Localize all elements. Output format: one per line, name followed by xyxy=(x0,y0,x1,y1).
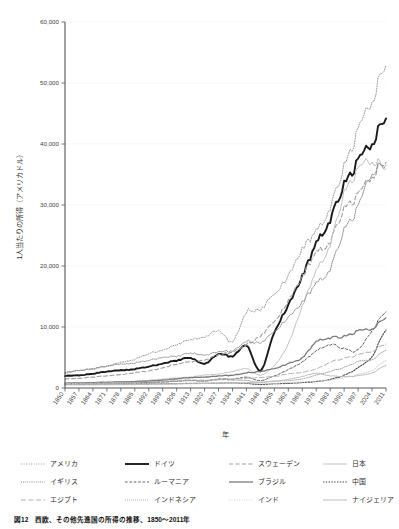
x-tick-label: 1885 xyxy=(121,390,135,406)
legend-label: インド xyxy=(258,497,279,504)
series-line xyxy=(65,65,386,373)
series-lines xyxy=(65,65,386,385)
x-tick-label: 1990 xyxy=(330,390,344,406)
x-tick-label: 1864 xyxy=(79,390,93,406)
x-tick-label: 1976 xyxy=(302,390,316,406)
legend-label: ナイジェリア xyxy=(352,497,394,504)
x-tick-label: 1948 xyxy=(247,390,261,406)
x-tick-label: 1850 xyxy=(51,390,65,406)
legend-item[interactable]: ブラジル xyxy=(228,478,322,486)
legend-swatch-line-icon xyxy=(228,478,254,486)
y-tick-label: 0 xyxy=(56,384,60,391)
x-axis-title: 年 xyxy=(222,430,229,439)
chart-legend: アメリカドイツスウェーデン日本イギリスルーマニアブラジル中国エジプトインドネシア… xyxy=(20,455,392,511)
legend-swatch-line-icon xyxy=(20,478,46,486)
x-axis-ticks: 1850185718641871187818851892189919061913… xyxy=(51,388,386,406)
series-line xyxy=(65,163,386,373)
legend-label: 日本 xyxy=(352,461,366,468)
legend-item[interactable]: エジプト xyxy=(20,496,124,504)
x-tick-label: 1962 xyxy=(274,390,288,406)
legend-label: スウェーデン xyxy=(258,461,300,468)
gridlines xyxy=(65,22,386,327)
x-tick-label: 1899 xyxy=(149,390,163,406)
y-tick-label: 10,000 xyxy=(40,323,59,330)
x-tick-label: 1941 xyxy=(233,390,247,406)
legend-item[interactable]: ナイジェリア xyxy=(322,496,399,504)
legend-swatch-line-icon xyxy=(322,496,348,504)
y-tick-label: 40,000 xyxy=(40,140,59,147)
y-tick-label: 60,000 xyxy=(40,18,59,25)
legend-item[interactable]: スウェーデン xyxy=(228,460,322,468)
legend-label: エジプト xyxy=(50,497,78,504)
legend-label: インドネシア xyxy=(154,497,196,504)
x-tick-label: 1934 xyxy=(219,390,233,406)
y-axis-ticks: 010,00020,00030,00040,00050,00060,000 xyxy=(40,18,65,391)
x-tick-label: 1871 xyxy=(93,390,107,406)
legend-label: イギリス xyxy=(50,479,78,486)
legend-label: ブラジル xyxy=(258,479,286,486)
y-axis-title: 1人当たりの所得（アメリカドル） xyxy=(15,151,24,260)
legend-swatch-line-icon xyxy=(322,460,348,468)
x-tick-label: 1906 xyxy=(163,390,177,406)
x-tick-label: 1857 xyxy=(65,390,79,406)
x-tick-label: 2011 xyxy=(372,390,386,405)
series-line xyxy=(65,312,386,385)
legend-swatch-line-icon xyxy=(228,460,254,468)
legend-item[interactable]: イギリス xyxy=(20,478,124,486)
legend-item[interactable]: 中国 xyxy=(322,478,399,486)
legend-item[interactable]: インド xyxy=(228,496,322,504)
figure-caption: 図12 西欧、その他先進国の所得の推移、1850～2011年 xyxy=(14,516,386,527)
x-tick-label: 1913 xyxy=(177,390,191,406)
figure-container: 010,00020,00030,00040,00050,00060,000 18… xyxy=(0,0,399,529)
legend-label: アメリカ xyxy=(50,461,78,468)
x-tick-label: 1997 xyxy=(344,390,358,406)
x-tick-label: 1878 xyxy=(107,390,121,406)
x-tick-label: 1920 xyxy=(191,390,205,406)
legend-label: ルーマニア xyxy=(154,479,189,486)
chart-area: 010,00020,00030,00040,00050,00060,000 18… xyxy=(0,0,399,440)
x-tick-label: 1955 xyxy=(261,390,275,406)
x-tick-label: 1983 xyxy=(316,390,330,406)
legend-swatch-line-icon xyxy=(20,460,46,468)
x-tick-label: 2004 xyxy=(358,390,372,406)
x-tick-label: 1969 xyxy=(288,390,302,406)
y-tick-label: 20,000 xyxy=(40,262,59,269)
series-line xyxy=(65,158,386,383)
y-tick-label: 50,000 xyxy=(40,79,59,86)
legend-label: 中国 xyxy=(352,479,366,486)
legend-item[interactable]: インドネシア xyxy=(124,496,228,504)
legend-swatch-line-icon xyxy=(124,496,150,504)
legend-swatch-line-icon xyxy=(20,496,46,504)
x-tick-label: 1892 xyxy=(135,390,149,406)
x-tick-label: 1927 xyxy=(205,390,219,406)
legend-label: ドイツ xyxy=(154,461,175,468)
legend-item[interactable]: 日本 xyxy=(322,460,399,468)
legend-swatch-line-icon xyxy=(228,496,254,504)
legend-item[interactable]: ドイツ xyxy=(124,460,228,468)
legend-swatch-line-icon xyxy=(322,478,348,486)
legend-swatch-line-icon xyxy=(124,460,150,468)
legend-swatch-line-icon xyxy=(124,478,150,486)
line-chart: 010,00020,00030,00040,00050,00060,000 18… xyxy=(0,0,399,440)
legend-item[interactable]: ルーマニア xyxy=(124,478,228,486)
legend-item[interactable]: アメリカ xyxy=(20,460,124,468)
y-tick-label: 30,000 xyxy=(40,201,59,208)
